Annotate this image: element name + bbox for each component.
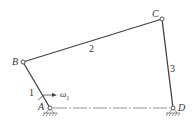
label-c: C [152, 9, 159, 19]
angular-velocity-arrow-icon [38, 93, 57, 100]
link-2 [23, 19, 162, 62]
label-d: D [178, 103, 185, 113]
joint-d [171, 106, 175, 110]
joint-a [48, 106, 52, 110]
omega-subscript: 1 [66, 95, 69, 101]
label-omega: ω1 [60, 90, 69, 101]
label-link-3: 3 [170, 64, 175, 74]
label-link-1: 1 [29, 88, 34, 98]
joint-c [160, 17, 164, 21]
link-1 [23, 62, 50, 108]
linkage-diagram [0, 0, 195, 131]
label-link-2: 2 [89, 44, 94, 54]
joint-b [21, 60, 25, 64]
label-b: B [12, 57, 18, 67]
label-a: A [38, 102, 44, 112]
